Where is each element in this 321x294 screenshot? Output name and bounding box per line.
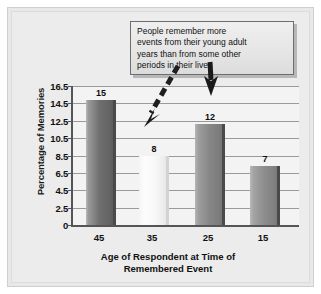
annotation-callout-box: People remember more events from their y… — [130, 21, 294, 75]
plot-area: 15 8 12 7 — [71, 86, 299, 227]
bar-45[interactable]: 15 — [86, 100, 116, 226]
annotation-text: People remember more events from their y… — [137, 26, 288, 71]
x-axis-title-line1: Age of Respondent at Time of — [48, 251, 288, 263]
x-axis-title: Age of Respondent at Time of Remembered … — [48, 251, 288, 275]
y-tick-label: 8.5 — [55, 150, 68, 161]
bar-edge — [222, 124, 225, 225]
y-tickmark — [68, 225, 73, 226]
chart-screenshot: Percentage of Memories 16.5 14.5 12.5 10… — [0, 0, 321, 294]
y-tick-label: 6.5 — [55, 167, 68, 178]
x-tick-label-25: 25 — [203, 232, 214, 243]
annotation-line-2: events from their young adult — [137, 37, 288, 48]
bar-fill — [139, 156, 169, 225]
x-tick-label-35: 35 — [147, 232, 158, 243]
y-tick-label: 4.5 — [55, 185, 68, 196]
x-tick-label-15: 15 — [258, 232, 269, 243]
bar-fill — [86, 100, 116, 226]
y-tickmark — [68, 190, 73, 191]
y-tickmark — [68, 103, 73, 104]
y-tickmark — [68, 86, 73, 87]
gridline — [73, 86, 299, 87]
y-tick-label: 14.5 — [50, 98, 68, 109]
bar-edge — [277, 166, 280, 225]
y-tickmark — [68, 156, 73, 157]
bar-value-label: 7 — [262, 154, 267, 164]
y-tickmark — [68, 208, 73, 209]
bar-fill — [250, 166, 280, 225]
bar-edge — [166, 156, 169, 225]
bar-15[interactable]: 7 — [250, 166, 280, 225]
y-axis-tick-labels: 16.5 14.5 12.5 10.5 8.5 6.5 4.5 2.5 0 — [34, 86, 68, 225]
annotation-line-3: years than from some other — [137, 49, 288, 60]
x-axis-title-line2: Remembered Event — [48, 263, 288, 275]
y-tick-label: 16.5 — [50, 81, 68, 92]
y-tick-label: 10.5 — [50, 133, 68, 144]
bar-value-label: 8 — [151, 144, 156, 154]
bar-25[interactable]: 12 — [195, 124, 225, 225]
bar-edge — [113, 100, 116, 226]
annotation-line-4: periods in their lives — [137, 60, 288, 71]
y-tick-label: 2.5 — [55, 202, 68, 213]
y-tickmark — [68, 138, 73, 139]
bar-fill — [195, 124, 225, 225]
y-tickmark — [68, 121, 73, 122]
annotation-line-1: People remember more — [137, 26, 288, 37]
y-tick-label: 12.5 — [50, 115, 68, 126]
chart-panel: Percentage of Memories 16.5 14.5 12.5 10… — [7, 7, 314, 287]
y-tickmark — [68, 173, 73, 174]
bar-value-label: 15 — [96, 88, 106, 98]
bar-35[interactable]: 8 — [139, 156, 169, 225]
bar-value-label: 12 — [205, 112, 215, 122]
x-tick-label-45: 45 — [94, 232, 105, 243]
